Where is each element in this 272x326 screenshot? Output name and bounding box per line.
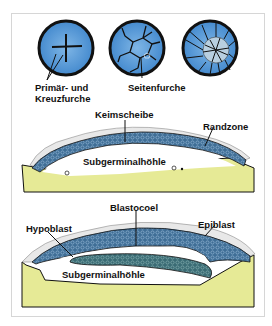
label-primaer-kreuzfurche-line2: Kreuzfurche: [35, 94, 90, 104]
label-seitenfurche: Seitenfurche: [128, 83, 186, 93]
label-subgerminalhoehle-2: Subgerminalhöhle: [62, 270, 145, 280]
label-blastocoel: Blastocoel: [110, 203, 158, 213]
label-epiblast: Epiblast: [198, 220, 235, 230]
cleavage-stage-3-disc: [183, 21, 237, 75]
label-primaer-kreuzfurche-line1: Primär- und: [35, 83, 88, 93]
label-subgerminalhoehle-1: Subgerminalhöhle: [83, 157, 166, 167]
label-randzone: Randzone: [203, 122, 248, 132]
cleavage-stage-2-disc: [110, 21, 164, 78]
label-keimscheibe: Keimscheibe: [95, 110, 154, 120]
label-hypoblast: Hypoblast: [26, 224, 72, 234]
cleavage-stage-1-disc: [39, 21, 93, 80]
